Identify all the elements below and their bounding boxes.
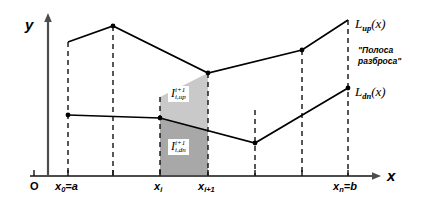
band-annotation: "Полоса разброса"	[358, 45, 401, 67]
vertex-marker	[111, 24, 116, 29]
tick-label-xn-sub: n	[339, 185, 344, 194]
lower-curve-label-sub: dn	[362, 91, 371, 101]
tick-label-x0: x0=a	[55, 181, 78, 192]
band-annotation-line1: "Полоса	[358, 45, 401, 56]
lower-region-label: Ii+1i,dn	[168, 139, 189, 155]
lower-region-subscript: i,dn	[175, 147, 186, 154]
vertex-marker	[300, 48, 305, 53]
band-annotation-line2: разброса"	[358, 56, 401, 67]
y-axis-label: y	[25, 17, 33, 32]
scatter-band-diagram: y x O x0=a xi xi+1 xn=b Lup(x) Ldn(x) "П…	[0, 0, 422, 207]
lower-curve-label: Ldn(x)	[355, 85, 386, 98]
tick-label-xn: xn=b	[333, 181, 357, 192]
upper-region-label: Ii+1i,up	[168, 86, 189, 102]
tick-label-xi: xi	[154, 181, 162, 192]
vertex-marker	[158, 116, 163, 121]
upper-curve-label-arg: (x)	[371, 16, 385, 31]
lower-region-indices: i+1i,dn	[175, 140, 186, 154]
origin-label: O	[30, 181, 39, 192]
upper-curve-label-sub: up	[362, 23, 371, 33]
upper-region-indices: i+1i,up	[175, 87, 186, 101]
upper-region-subscript: i,up	[175, 94, 186, 101]
vertex-marker	[346, 86, 351, 91]
vertex-marker	[206, 71, 211, 76]
tick-label-xn-tail: =b	[344, 180, 357, 192]
x-axis-arrowhead	[372, 172, 381, 180]
x-axis-label: x	[387, 168, 395, 183]
tick-label-xi1-sub: i+1	[204, 185, 215, 194]
lower-curve-label-arg: (x)	[371, 84, 385, 99]
vertex-marker	[66, 113, 71, 118]
tick-label-xi-sub: i	[160, 185, 162, 194]
tick-label-xi1: xi+1	[198, 181, 215, 192]
tick-label-x0-tail: =a	[65, 180, 78, 192]
diagram-canvas	[0, 0, 422, 207]
tick-label-x0-sub: 0	[61, 185, 65, 194]
vertex-marker	[253, 141, 258, 146]
y-axis-arrowhead	[44, 13, 52, 22]
upper-bound-curve	[68, 20, 348, 73]
upper-curve-label: Lup(x)	[355, 17, 386, 30]
